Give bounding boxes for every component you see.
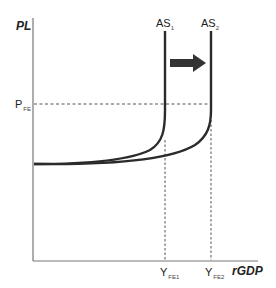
yfe2-label: YFE2 (205, 266, 225, 280)
as2-label: AS2 (201, 17, 220, 31)
pfe-label: PFE (15, 98, 31, 112)
as1-curve (34, 31, 165, 164)
y-axis-label: PL (16, 19, 31, 33)
as1-label: AS1 (156, 17, 175, 31)
as2-curve (34, 31, 211, 164)
x-axis-label: rGDP (232, 264, 264, 278)
right-shift-arrow-icon (170, 54, 206, 72)
yfe1-label: YFE1 (160, 266, 180, 280)
aggregate-supply-diagram: PL rGDP PFE AS1 AS2 YFE1 YFE2 (0, 0, 276, 288)
